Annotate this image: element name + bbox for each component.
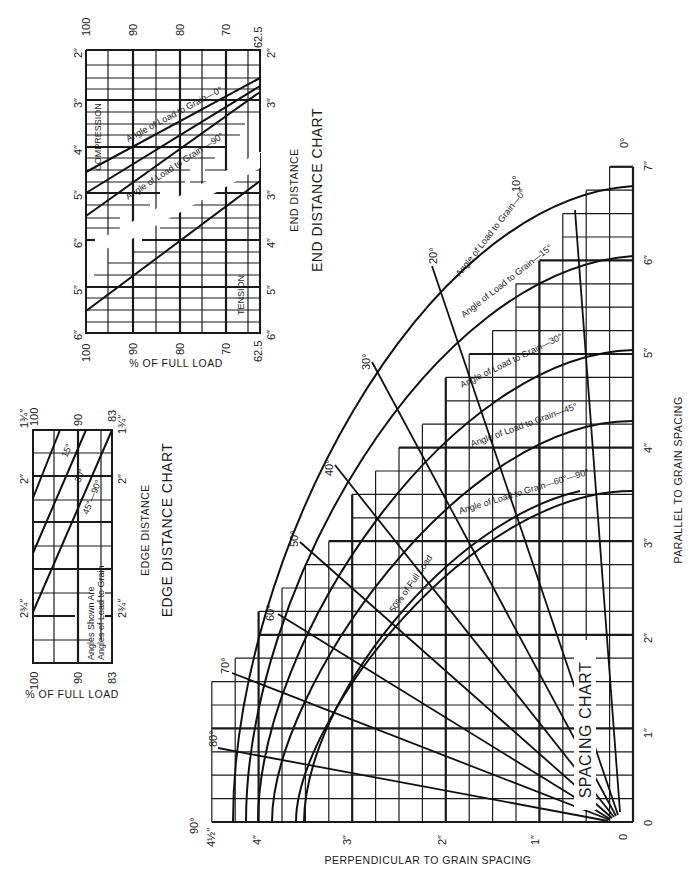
svg-text:5″: 5″ bbox=[642, 348, 654, 358]
svg-text:4″: 4″ bbox=[251, 835, 263, 845]
svg-text:20°: 20° bbox=[427, 247, 439, 264]
svg-text:62.5: 62.5 bbox=[252, 341, 264, 362]
sp-curve-30-label: Angle of Load to Grain—30° bbox=[458, 331, 564, 390]
svg-text:6″: 6″ bbox=[265, 330, 277, 340]
svg-text:50°: 50° bbox=[288, 530, 300, 547]
svg-text:5″: 5″ bbox=[72, 190, 84, 200]
svg-text:2″: 2″ bbox=[18, 474, 30, 484]
svg-text:4½″: 4½″ bbox=[205, 828, 217, 847]
edge-note-line1: Angles Shown Are bbox=[86, 586, 96, 660]
end-xlabel: % OF FULL LOAD bbox=[129, 357, 223, 369]
svg-text:4″: 4″ bbox=[265, 238, 277, 248]
svg-text:1″: 1″ bbox=[642, 728, 654, 738]
svg-text:70: 70 bbox=[220, 24, 232, 36]
svg-text:3″: 3″ bbox=[265, 190, 277, 200]
edge-subtitle: EDGE DISTANCE bbox=[139, 484, 151, 575]
svg-text:90°: 90° bbox=[188, 817, 200, 834]
svg-text:62.5: 62.5 bbox=[252, 27, 264, 48]
svg-text:1¾″: 1¾″ bbox=[18, 409, 30, 428]
svg-text:4″: 4″ bbox=[642, 443, 654, 453]
svg-text:5″: 5″ bbox=[72, 285, 84, 295]
edge-left-ticks: 1¾″ 2″ 2¾″ bbox=[18, 409, 30, 618]
svg-text:1¾″: 1¾″ bbox=[116, 415, 128, 434]
svg-text:2″: 2″ bbox=[642, 633, 654, 643]
end-left-ticks: 2″ 3″ 4″ 5″ 6″ 5″ 6″ bbox=[72, 48, 84, 340]
svg-text:100: 100 bbox=[80, 344, 92, 362]
svg-text:6″: 6″ bbox=[72, 238, 84, 248]
svg-text:2¾″: 2¾″ bbox=[18, 599, 30, 618]
svg-text:80: 80 bbox=[174, 343, 186, 355]
ray-50deg bbox=[300, 542, 612, 818]
spacing-chart: SPACING CHART Angle of Load to Grain—0° … bbox=[188, 137, 684, 866]
end-title: END DISTANCE CHART bbox=[309, 108, 325, 272]
edge-30-label: 30° bbox=[73, 467, 88, 484]
svg-text:10°: 10° bbox=[510, 175, 522, 192]
svg-text:6″: 6″ bbox=[72, 330, 84, 340]
svg-text:40°: 40° bbox=[323, 459, 335, 476]
svg-text:4″: 4″ bbox=[72, 145, 84, 155]
svg-text:0: 0 bbox=[642, 820, 654, 826]
svg-text:7″: 7″ bbox=[642, 161, 654, 171]
svg-text:3″: 3″ bbox=[265, 98, 277, 108]
spacing-xlabel: PERPENDICULAR TO GRAIN SPACING bbox=[325, 854, 532, 866]
edge-curve-15 bbox=[33, 430, 60, 498]
svg-text:90: 90 bbox=[127, 24, 139, 36]
edge-xlabel: % OF FULL LOAD bbox=[25, 688, 119, 700]
svg-text:3″: 3″ bbox=[72, 98, 84, 108]
edge-note-line2: Angles of Load to Grain bbox=[96, 565, 106, 660]
svg-text:90: 90 bbox=[127, 343, 139, 355]
svg-text:90: 90 bbox=[72, 414, 84, 426]
svg-text:3″: 3″ bbox=[341, 835, 353, 845]
svg-text:6″: 6″ bbox=[642, 255, 654, 265]
edge-right-ticks: 1¾″ 2″ 2¾″ bbox=[116, 415, 128, 618]
svg-text:2″: 2″ bbox=[116, 474, 128, 484]
svg-text:30°: 30° bbox=[360, 353, 372, 370]
end-distance-chart: COMPRESSION TENSION Angle of Load to Gra… bbox=[72, 18, 325, 369]
svg-text:90: 90 bbox=[72, 672, 84, 684]
svg-text:80°: 80° bbox=[207, 730, 219, 747]
spacing-ylabel: PARALLEL TO GRAIN SPACING bbox=[672, 396, 684, 563]
svg-text:3″: 3″ bbox=[642, 538, 654, 548]
tension-label: TENSION bbox=[236, 275, 246, 315]
svg-text:5″: 5″ bbox=[265, 285, 277, 295]
ray-70deg bbox=[232, 673, 610, 820]
svg-text:2¾″: 2¾″ bbox=[116, 599, 128, 618]
spacing-right-ticks: 0 1″ 2″ 3″ 4″ 5″ 6″ 7″ bbox=[642, 161, 654, 826]
svg-text:2″: 2″ bbox=[436, 835, 448, 845]
svg-text:60°: 60° bbox=[264, 604, 276, 621]
svg-text:70°: 70° bbox=[219, 657, 231, 674]
end-right-ticks: 2″ 3″ 3″ 4″ 5″ 6″ bbox=[265, 48, 277, 340]
edge-15-label: 15° bbox=[60, 442, 75, 459]
svg-text:0: 0 bbox=[617, 834, 629, 840]
svg-text:83: 83 bbox=[106, 672, 118, 684]
end-top-ticks: 100 90 80 70 62.5 bbox=[80, 18, 264, 48]
svg-text:2″: 2″ bbox=[265, 48, 277, 58]
spacing-title: SPACING CHART bbox=[577, 662, 594, 799]
edge-title: EDGE DISTANCE CHART bbox=[159, 443, 175, 618]
spacing-bottom-ticks: 4½″ 4″ 3″ 2″ 1″ 0 bbox=[205, 828, 629, 847]
sp-curve-60-label: Angle of Load to Grain—60°—90° bbox=[458, 467, 591, 516]
end-subtitle: END DISTANCE bbox=[288, 148, 300, 231]
edge-top-ticks: 100 90 83 bbox=[28, 408, 118, 426]
svg-text:100: 100 bbox=[80, 18, 92, 36]
svg-text:0°: 0° bbox=[618, 137, 630, 148]
svg-text:1″: 1″ bbox=[529, 835, 541, 845]
svg-text:80: 80 bbox=[174, 24, 186, 36]
spacing-curves bbox=[233, 186, 633, 822]
svg-text:70: 70 bbox=[220, 343, 232, 355]
edge-distance-chart: 15° 30° 45°—90° Angles Shown Are Angles … bbox=[18, 408, 175, 700]
svg-text:2″: 2″ bbox=[72, 48, 84, 58]
sp-curve-0-label: Angle of Load to Grain—0° bbox=[454, 187, 528, 278]
timber-connector-charts-figure: COMPRESSION TENSION Angle of Load to Gra… bbox=[0, 0, 692, 881]
compression-label: COMPRESSION bbox=[93, 103, 103, 171]
